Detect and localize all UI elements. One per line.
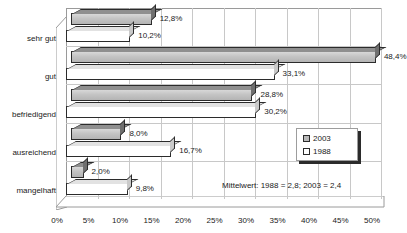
value-label-2003-1: 48,4%	[384, 52, 407, 61]
bar-top-face	[67, 141, 182, 146]
x-tick-5: 5%	[74, 216, 104, 225]
bar-top-face	[72, 9, 162, 14]
category-label-4: mangelhaft	[16, 186, 56, 195]
x-tick-20: 20%	[168, 216, 198, 225]
bar-2003-3	[71, 128, 121, 140]
category-label-0: sehr gut	[27, 34, 56, 43]
x-tick-15: 15%	[137, 216, 167, 225]
gridline-35	[287, 8, 288, 199]
gridline-45	[350, 8, 351, 199]
value-label-2003-0: 12,8%	[160, 14, 183, 23]
bar-top-face	[72, 85, 263, 90]
bar-1988-2	[66, 106, 256, 118]
value-label-2003-4: 2,0%	[92, 167, 110, 176]
x-tick-30: 30%	[231, 216, 261, 225]
x-tick-10: 10%	[105, 216, 135, 225]
value-label-1988-0: 10,2%	[138, 31, 161, 40]
category-axis: sehr gut gut befriedigend ausreichend ma…	[0, 0, 56, 233]
bar-top-face	[67, 64, 285, 69]
category-label-1: gut	[45, 72, 56, 81]
x-tick-50: 50%	[357, 216, 387, 225]
chart-legend: 2003 1988	[296, 128, 358, 161]
bar-1988-0	[66, 30, 130, 42]
value-label-1988-3: 16,7%	[179, 146, 202, 155]
bar-top-face	[72, 47, 386, 52]
bar-1988-4	[66, 183, 128, 195]
bar-2003-1	[71, 51, 376, 63]
x-tick-35: 35%	[263, 216, 293, 225]
bar-1988-1	[66, 68, 275, 80]
gridline-50	[381, 8, 382, 199]
x-tick-45: 45%	[326, 216, 356, 225]
legend-item-1988: 1988	[303, 147, 331, 156]
category-label-3: ausreichend	[12, 148, 56, 157]
category-label-2: befriedigend	[12, 110, 56, 119]
legend-label-1988: 1988	[313, 147, 331, 156]
gridline-40	[318, 8, 319, 199]
bar-2003-4	[71, 166, 84, 178]
x-tick-40: 40%	[294, 216, 324, 225]
bar-2003-2	[71, 89, 252, 101]
value-label-1988-4: 9,8%	[136, 184, 154, 193]
bar-top-face	[67, 102, 267, 107]
value-label-1988-2: 30,2%	[264, 107, 287, 116]
bar-2003-0	[71, 13, 152, 25]
value-label-1988-1: 33,1%	[283, 69, 306, 78]
legend-swatch-1988-icon	[303, 148, 310, 155]
value-label-2003-3: 8,0%	[129, 129, 147, 138]
value-label-2003-2: 28,8%	[260, 90, 283, 99]
bar-1988-3	[66, 145, 171, 157]
x-tick-0: 0%	[42, 216, 72, 225]
legend-item-2003: 2003	[303, 134, 331, 143]
legend-label-2003: 2003	[313, 134, 331, 143]
legend-swatch-2003-icon	[303, 135, 310, 142]
mittelwert-annotation: Mittelwert: 1988 = 2,8; 2003 = 2,4	[222, 181, 341, 190]
x-tick-25: 25%	[200, 216, 230, 225]
